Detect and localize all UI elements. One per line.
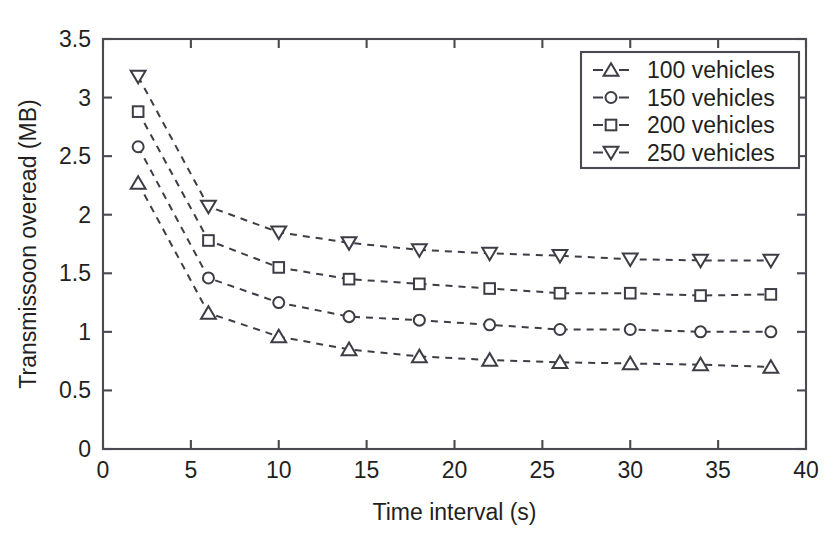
x-axis-title: Time interval (s)	[373, 499, 537, 525]
x-tick-label: 20	[442, 457, 468, 483]
triangle-down-marker-icon	[623, 254, 638, 267]
triangle-up-marker-icon	[131, 176, 146, 189]
square-marker-icon	[555, 288, 566, 299]
square-marker-icon	[273, 262, 284, 273]
legend-item-label: 200 vehicles	[647, 112, 775, 138]
chart-legend[interactable]: 100 vehicles150 vehicles200 vehicles250 …	[581, 52, 799, 168]
data-point	[695, 326, 706, 337]
square-marker-icon	[606, 120, 617, 131]
circle-marker-icon	[344, 311, 355, 322]
circle-marker-icon	[695, 326, 706, 337]
legend-item-label: 250 vehicles	[647, 140, 775, 166]
x-tick-label: 35	[705, 457, 731, 483]
data-point	[625, 288, 636, 299]
data-point	[344, 311, 355, 322]
triangle-up-marker-icon	[763, 360, 778, 373]
circle-marker-icon	[273, 297, 284, 308]
x-tick-label: 10	[266, 457, 292, 483]
x-tick-label: 30	[617, 457, 643, 483]
transmission-overhead-line-chart: 0510152025303540 00.511.522.533.5 Time i…	[0, 0, 836, 538]
square-marker-icon	[344, 274, 355, 285]
circle-marker-icon	[554, 324, 565, 335]
data-point	[623, 254, 638, 267]
y-tick-label: 1	[78, 319, 91, 345]
series-dashed-line	[138, 183, 771, 367]
x-tick-label: 5	[184, 457, 197, 483]
y-tick-label: 2.5	[59, 143, 91, 169]
legend-item-label: 100 vehicles	[647, 57, 775, 83]
y-axis-title: Transmissoon overead (MB)	[15, 99, 41, 388]
triangle-down-marker-icon	[763, 255, 778, 268]
circle-marker-icon	[133, 141, 144, 152]
data-point	[133, 141, 144, 152]
data-point	[271, 330, 286, 343]
data-point	[695, 290, 706, 301]
square-marker-icon	[695, 290, 706, 301]
series-dashed-line	[138, 147, 771, 332]
square-marker-icon	[625, 288, 636, 299]
data-point	[273, 262, 284, 273]
series-150-vehicles	[133, 141, 777, 337]
data-point	[414, 315, 425, 326]
square-marker-icon	[414, 279, 425, 290]
data-point	[273, 297, 284, 308]
y-tick-label: 0.5	[59, 377, 91, 403]
x-tick-label: 0	[97, 457, 110, 483]
circle-marker-icon	[414, 315, 425, 326]
data-point	[623, 357, 638, 370]
series-100-vehicles	[131, 176, 779, 372]
data-point	[763, 360, 778, 373]
triangle-up-marker-icon	[623, 357, 638, 370]
circle-marker-icon	[765, 326, 776, 337]
data-point	[342, 237, 357, 250]
data-point	[131, 176, 146, 189]
triangle-up-marker-icon	[271, 330, 286, 343]
data-point	[484, 319, 495, 330]
data-point	[131, 71, 146, 84]
data-point	[554, 324, 565, 335]
triangle-up-marker-icon	[201, 306, 216, 319]
data-point	[625, 324, 636, 335]
data-point	[763, 255, 778, 268]
legend-marker	[606, 120, 617, 131]
square-marker-icon	[203, 235, 214, 246]
data-point	[414, 279, 425, 290]
y-tick-label: 3	[78, 85, 91, 111]
data-point	[766, 289, 777, 300]
circle-marker-icon	[625, 324, 636, 335]
triangle-down-marker-icon	[342, 237, 357, 250]
data-point	[484, 283, 495, 294]
chart-figure: 0510152025303540 00.511.522.533.5 Time i…	[0, 0, 836, 538]
data-point	[765, 326, 776, 337]
data-point	[203, 272, 214, 283]
data-point	[203, 235, 214, 246]
triangle-down-marker-icon	[131, 71, 146, 84]
circle-marker-icon	[605, 92, 616, 103]
triangle-down-marker-icon	[201, 201, 216, 214]
x-tick-label: 25	[530, 457, 556, 483]
x-tick-label: 15	[354, 457, 380, 483]
legend-item-label: 150 vehicles	[647, 85, 775, 111]
square-marker-icon	[484, 283, 495, 294]
data-point	[555, 288, 566, 299]
data-point	[201, 306, 216, 319]
square-marker-icon	[766, 289, 777, 300]
square-marker-icon	[133, 106, 144, 117]
circle-marker-icon	[203, 272, 214, 283]
x-tick-label: 40	[793, 457, 819, 483]
y-tick-label: 0	[78, 436, 91, 462]
circle-marker-icon	[484, 319, 495, 330]
y-tick-label: 3.5	[59, 26, 91, 52]
y-tick-label: 2	[78, 202, 91, 228]
y-tick-label: 1.5	[59, 260, 91, 286]
data-point	[201, 201, 216, 214]
data-point	[133, 106, 144, 117]
data-point	[344, 274, 355, 285]
legend-marker	[605, 92, 616, 103]
